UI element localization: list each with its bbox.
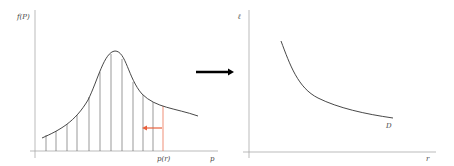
arrowhead-right-icon: [228, 69, 234, 76]
diagram-canvas: f(P) p(r) p ℓ D r: [0, 0, 454, 166]
density-curve: [42, 51, 198, 138]
hatch-lines: [46, 54, 153, 151]
left-plot: f(P) p(r) p: [16, 10, 218, 163]
transition-arrow: [196, 69, 234, 76]
curve-d-label: D: [385, 122, 392, 130]
shift-left-arrow: [142, 126, 162, 131]
right-x-label: r: [426, 155, 430, 163]
right-y-label: ℓ: [237, 13, 241, 21]
demand-curve: [281, 41, 393, 118]
p-r-label: p(r): [157, 155, 171, 163]
right-plot: ℓ D r: [237, 10, 436, 163]
left-x-label: p: [210, 155, 215, 163]
left-y-label: f(P): [16, 13, 30, 21]
